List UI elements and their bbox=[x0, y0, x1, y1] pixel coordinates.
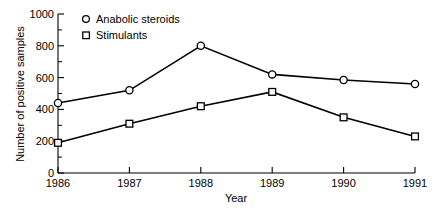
legend-label-anabolic-steroids: Anabolic steroids bbox=[96, 13, 180, 25]
legend-circle-icon bbox=[83, 16, 90, 23]
x-tick-label-1986: 1986 bbox=[46, 177, 70, 189]
legend-label-stimulants: Stimulants bbox=[96, 29, 148, 41]
x-tick-label-1990: 1990 bbox=[331, 177, 355, 189]
x-tick-label-1991: 1991 bbox=[403, 177, 427, 189]
data-point-square bbox=[340, 114, 347, 121]
x-tick-label-1988: 1988 bbox=[189, 177, 213, 189]
y-tick-label-400: 400 bbox=[36, 103, 54, 115]
chart-container: 1000 800 600 400 200 0 1986 1987 1988 19… bbox=[0, 0, 437, 212]
y-tick-label-600: 600 bbox=[36, 72, 54, 84]
y-tick-label-800: 800 bbox=[36, 40, 54, 52]
data-point-square bbox=[55, 139, 62, 146]
x-tick-label-1989: 1989 bbox=[260, 177, 284, 189]
x-tick-label-1987: 1987 bbox=[117, 177, 141, 189]
data-point-circle bbox=[126, 87, 133, 94]
data-point-circle bbox=[411, 80, 418, 87]
data-point-square bbox=[126, 120, 133, 127]
data-point-square bbox=[269, 89, 276, 96]
y-tick-label-1000: 1000 bbox=[30, 8, 54, 20]
y-axis-title: Number of positive samples bbox=[14, 26, 26, 162]
data-point-circle bbox=[340, 76, 347, 83]
data-point-circle bbox=[197, 42, 204, 49]
x-axis-title: Year bbox=[225, 192, 248, 204]
data-point-circle bbox=[54, 99, 61, 106]
data-point-square bbox=[412, 133, 419, 140]
data-point-circle bbox=[269, 71, 276, 78]
data-point-square bbox=[197, 103, 204, 110]
line-chart: 1000 800 600 400 200 0 1986 1987 1988 19… bbox=[0, 0, 437, 212]
legend-square-icon bbox=[83, 32, 90, 39]
legend-item-anabolic-steroids: Anabolic steroids bbox=[83, 13, 181, 25]
y-tick-label-200: 200 bbox=[36, 135, 54, 147]
